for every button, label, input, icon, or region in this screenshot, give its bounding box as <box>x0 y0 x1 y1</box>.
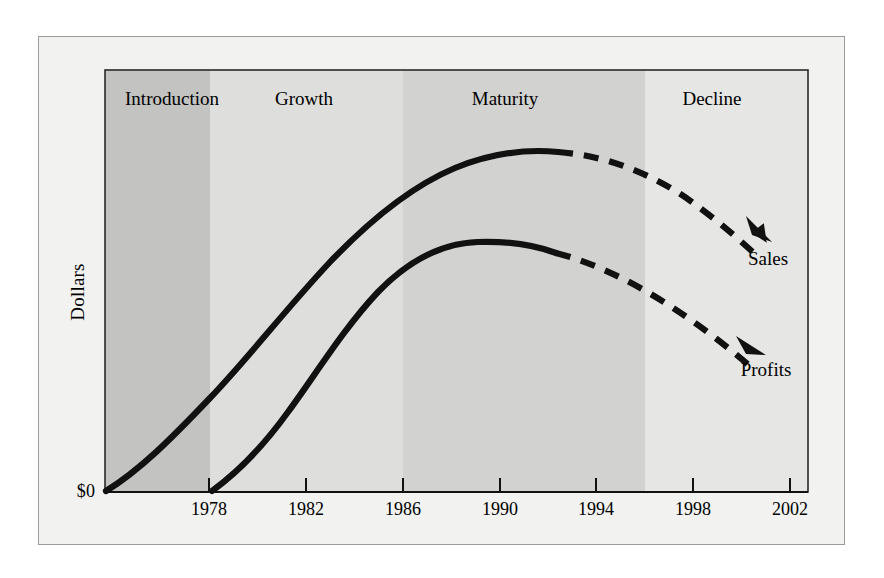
series-label-profits: Profits <box>741 359 792 381</box>
x-tick-label-1978: 1978 <box>191 499 227 520</box>
band-maturity <box>403 70 645 492</box>
x-tick-label-1998: 1998 <box>675 499 711 520</box>
band-decline <box>645 70 808 492</box>
x-tick-label-2002: 2002 <box>772 499 808 520</box>
x-tick-label-1990: 1990 <box>482 499 518 520</box>
x-tick-label-1986: 1986 <box>385 499 421 520</box>
band-growth <box>210 70 403 492</box>
y-axis-title: Dollars <box>67 263 89 320</box>
y-axis-zero-label: $0 <box>77 481 95 502</box>
band-introduction <box>105 70 210 492</box>
stage-label-maturity: Maturity <box>472 88 539 110</box>
product-life-cycle-figure: Dollars $0 Introduction Growth Maturity … <box>0 0 884 578</box>
chart-canvas <box>0 0 884 578</box>
stage-bands <box>105 70 808 492</box>
stage-label-decline: Decline <box>682 88 741 110</box>
stage-label-introduction: Introduction <box>125 88 219 110</box>
x-tick-label-1982: 1982 <box>288 499 324 520</box>
x-tick-label-1994: 1994 <box>578 499 614 520</box>
stage-label-growth: Growth <box>275 88 333 110</box>
series-label-sales: Sales <box>748 248 788 270</box>
